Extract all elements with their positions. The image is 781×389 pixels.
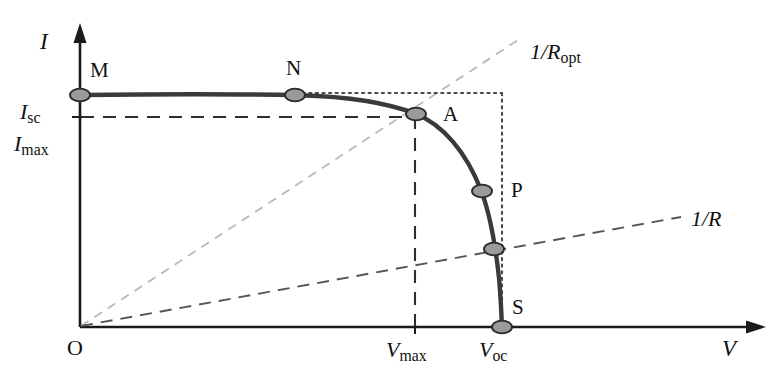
x-tick-label-voc: Voc (479, 339, 507, 361)
x-tick-label-vmax-main: V (386, 337, 399, 362)
iv-curve-canvas (0, 0, 781, 389)
y-axis-arrowhead (74, 23, 87, 43)
point-label-s: S (512, 297, 524, 318)
x-tick-label-vmax-sub: max (399, 347, 426, 364)
point-label-n: N (286, 58, 301, 79)
optimal-load-line-label: 1/Ropt (530, 41, 581, 63)
x-axis-arrowhead (746, 321, 766, 334)
y-tick-label-imax-sub: max (21, 141, 48, 158)
load-line (81, 217, 681, 326)
x-tick-label-vmax: Vmax (386, 339, 427, 361)
point-label-a: A (443, 104, 458, 125)
y-tick-label-imax: Imax (14, 133, 49, 155)
iv-curve-figure: I V O Isc Imax Vmax Voc M N A P S 1/Ropt… (0, 0, 781, 389)
iv-curve (80, 94, 502, 327)
axes-group (74, 23, 767, 334)
point-label-p: P (511, 180, 523, 201)
y-tick-label-isc-sub: sc (27, 109, 40, 126)
x-tick-label-voc-sub: oc (492, 347, 507, 364)
optimal-load-line-label-sub: opt (561, 49, 581, 66)
load-line-label: 1/R (691, 208, 722, 230)
point-label-m: M (90, 60, 109, 81)
marker-point-q (484, 243, 504, 256)
y-axis-label: I (40, 30, 48, 53)
marker-point-n (285, 89, 305, 102)
x-tick-label-voc-main: V (479, 337, 492, 362)
marker-point-p (472, 185, 492, 198)
y-tick-label-isc: Isc (20, 101, 41, 123)
marker-point-m (70, 89, 90, 102)
origin-label: O (67, 337, 83, 359)
tick-marks-group (72, 117, 415, 334)
x-axis-label: V (722, 337, 736, 360)
optimal-load-line-label-main: 1/R (530, 39, 561, 64)
optimal-load-line (81, 38, 521, 326)
marker-point-a (406, 108, 426, 121)
dotted-rectangle-group (296, 93, 502, 326)
load-line-label-main: 1/R (691, 206, 722, 231)
marker-point-s (492, 321, 512, 334)
